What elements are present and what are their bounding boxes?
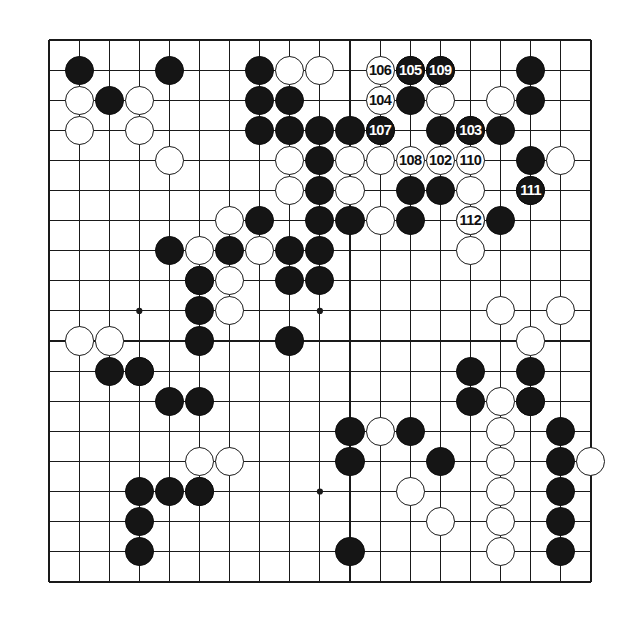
black-stone — [335, 116, 364, 145]
move-number-label: 104 — [369, 93, 391, 108]
move-number-label: 110 — [460, 153, 482, 168]
black-stone — [516, 86, 545, 115]
black-stone — [245, 86, 274, 115]
black-stone — [275, 266, 304, 295]
black-stone — [95, 86, 124, 115]
black-stone — [245, 206, 274, 235]
black-stone — [185, 387, 214, 416]
move-number-label: 107 — [369, 123, 391, 138]
black-stone — [396, 86, 425, 115]
white-stone — [275, 176, 304, 205]
black-stone — [546, 537, 575, 566]
move-stone-102: 102 — [426, 146, 455, 175]
black-stone — [125, 477, 154, 506]
white-stone — [65, 326, 94, 355]
move-number-label: 105 — [399, 63, 421, 78]
move-stone-104: 104 — [366, 86, 395, 115]
black-stone — [396, 417, 425, 446]
white-stone — [486, 417, 515, 446]
move-stone-112: 112 — [456, 206, 485, 235]
black-stone — [546, 447, 575, 476]
move-stone-110: 110 — [456, 146, 485, 175]
white-stone — [456, 236, 485, 265]
white-stone — [366, 417, 395, 446]
white-stone — [155, 146, 184, 175]
black-stone — [95, 357, 124, 386]
white-stone — [335, 176, 364, 205]
black-stone — [185, 296, 214, 325]
black-stone — [305, 236, 334, 265]
white-stone — [486, 537, 515, 566]
black-stone — [185, 477, 214, 506]
white-stone — [546, 296, 575, 325]
white-stone — [516, 326, 545, 355]
black-stone — [335, 537, 364, 566]
white-stone — [456, 176, 485, 205]
white-stone — [95, 326, 124, 355]
white-stone — [125, 116, 154, 145]
white-stone — [185, 447, 214, 476]
black-stone — [546, 507, 575, 536]
white-stone — [65, 116, 94, 145]
black-stone — [125, 357, 154, 386]
move-number-label: 103 — [459, 123, 481, 138]
move-stone-109: 109 — [426, 56, 455, 85]
black-stone — [486, 116, 515, 145]
black-stone — [245, 56, 274, 85]
move-number-label: 108 — [399, 153, 421, 168]
move-stone-111: 111 — [516, 176, 545, 205]
white-stone — [275, 56, 304, 85]
move-stone-107: 107 — [366, 116, 395, 145]
white-stone — [305, 56, 334, 85]
black-stone — [275, 326, 304, 355]
white-stone — [366, 206, 395, 235]
black-stone — [275, 116, 304, 145]
white-stone — [65, 86, 94, 115]
black-stone — [155, 387, 184, 416]
black-stone — [305, 116, 334, 145]
white-stone — [426, 507, 455, 536]
black-stone — [185, 266, 214, 295]
black-stone — [426, 176, 455, 205]
black-stone — [125, 507, 154, 536]
black-stone — [546, 417, 575, 446]
black-stone — [396, 176, 425, 205]
black-stone — [426, 447, 455, 476]
move-number-label: 111 — [520, 183, 541, 198]
black-stone — [155, 56, 184, 85]
black-stone — [456, 387, 485, 416]
white-stone — [486, 447, 515, 476]
black-stone — [125, 537, 154, 566]
black-stone — [516, 357, 545, 386]
black-stone — [275, 86, 304, 115]
move-number-label: 109 — [429, 63, 451, 78]
black-stone — [426, 116, 455, 145]
move-stone-106: 106 — [366, 56, 395, 85]
white-stone — [215, 266, 244, 295]
white-stone — [215, 447, 244, 476]
white-stone — [486, 387, 515, 416]
white-stone — [486, 477, 515, 506]
black-stone — [155, 236, 184, 265]
white-stone — [426, 86, 455, 115]
white-stone — [546, 146, 575, 175]
move-number-label: 102 — [429, 153, 451, 168]
black-stone — [396, 206, 425, 235]
black-stone — [305, 146, 334, 175]
white-stone — [335, 146, 364, 175]
move-number-label: 106 — [369, 63, 391, 78]
black-stone — [65, 56, 94, 85]
black-stone — [245, 116, 274, 145]
black-stone — [546, 477, 575, 506]
white-stone — [486, 86, 515, 115]
black-stone — [516, 56, 545, 85]
white-stone — [366, 146, 395, 175]
white-stone — [486, 507, 515, 536]
white-stone — [125, 86, 154, 115]
black-stone — [305, 266, 334, 295]
black-stone — [305, 206, 334, 235]
white-stone — [215, 206, 244, 235]
black-stone — [275, 236, 304, 265]
black-stone — [516, 146, 545, 175]
white-stone — [275, 146, 304, 175]
